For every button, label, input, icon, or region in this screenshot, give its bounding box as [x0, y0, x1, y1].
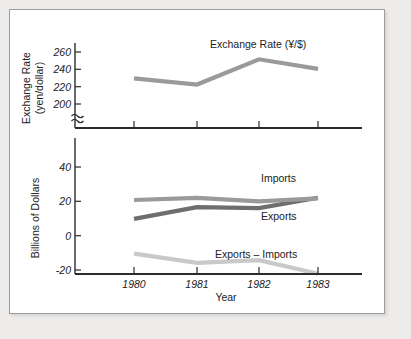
axis-break-icon	[72, 114, 84, 122]
exchange-rate-ytick-label-260: 260	[52, 46, 71, 58]
x-tick-label-1980: 1980	[122, 278, 146, 290]
series-line-exports	[134, 198, 318, 201]
trade-y-ticks	[75, 167, 81, 270]
exchange-rate-y-axis-title-line1: Exchange Rate	[20, 52, 32, 124]
exchange-rate-ytick-label-240: 240	[52, 63, 71, 75]
trade-ytick-label-20: 20	[58, 195, 71, 207]
trade-ytick-label-0: 0	[65, 230, 71, 242]
divider-x-ticks	[134, 121, 318, 128]
exchange-rate-ytick-label-200: 200	[52, 98, 71, 110]
x-axis-title: Year	[215, 291, 237, 303]
exchange-rate-ytick-label-220: 220	[52, 81, 71, 93]
x-tick-label-1982: 1982	[247, 278, 271, 290]
x-tick-label-1983: 1983	[306, 278, 330, 290]
series-label-exports: Exports	[261, 210, 297, 222]
trade-ytick-label-40: 40	[59, 161, 71, 173]
trade-ytick-label-minus-20: -20	[56, 264, 71, 276]
series-label-exchange-rate: Exchange Rate (¥/$)	[210, 38, 306, 50]
exchange-rate-y-axis-title-line2: (yen/dollar)	[33, 62, 45, 115]
chart-plot-area: 260 240 220 200 Exchange Rate (yen/dolla…	[10, 10, 384, 313]
series-line-exchange-rate	[134, 59, 318, 84]
x-tick-label-1981: 1981	[185, 278, 208, 290]
chart-figure-panel: 260 240 220 200 Exchange Rate (yen/dolla…	[9, 9, 385, 314]
series-label-imports: Imports	[261, 172, 296, 184]
exchange-rate-y-ticks	[75, 52, 81, 104]
trade-y-axis-title: Billions of Dollars	[29, 178, 41, 259]
series-label-exports-minus-imports: Exports – Imports	[215, 248, 297, 260]
